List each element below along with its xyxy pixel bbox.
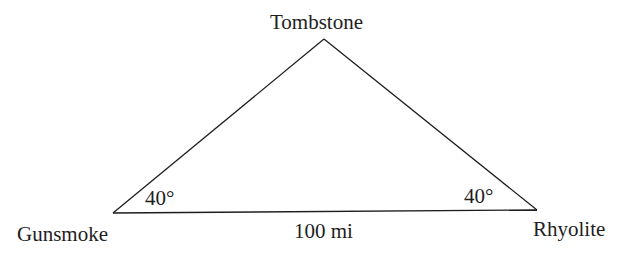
label-rhyolite: Rhyolite [533, 217, 605, 241]
label-left-angle: 40° [145, 186, 174, 210]
label-right-angle: 40° [464, 184, 493, 208]
edge-gunsmoke-rhyolite [113, 210, 537, 213]
diagram-svg: Tombstone Gunsmoke Rhyolite 100 mi 40° 4… [0, 0, 618, 257]
label-tombstone: Tombstone [270, 10, 363, 34]
label-gunsmoke: Gunsmoke [17, 222, 108, 246]
label-base-length: 100 mi [294, 219, 353, 243]
edge-tombstone-rhyolite [324, 39, 537, 210]
triangle-diagram: Tombstone Gunsmoke Rhyolite 100 mi 40° 4… [0, 0, 618, 257]
